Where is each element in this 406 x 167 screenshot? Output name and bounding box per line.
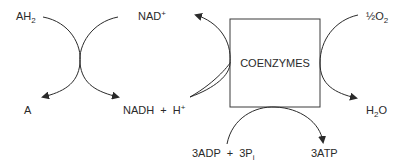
arc-left-of-box — [190, 63, 230, 97]
label-nadh-h-plus: NADH + H+ — [123, 103, 186, 116]
label-half-o2: ½O2 — [366, 10, 389, 25]
arc-adp-to-atp — [227, 107, 323, 144]
arc-nad-to-nadh — [80, 17, 118, 97]
label-3adp-3pi: 3ADP + 3Pi — [192, 147, 255, 162]
label-ah2: AH2 — [16, 10, 36, 25]
arc-ah2-to-a — [43, 17, 80, 97]
label-3atp: 3ATP — [311, 147, 338, 159]
label-nad-plus: NAD+ — [138, 9, 166, 22]
coenzymes-label: COENZYMES — [240, 57, 310, 69]
arc-o2-to-h2o — [320, 15, 358, 98]
label-h2o: H2O — [366, 104, 387, 119]
arc-nadh-to-nad — [190, 15, 230, 97]
label-a: A — [24, 104, 32, 116]
coenzyme-diagram: COENZYMES AH2 NAD+ A NADH + H+ ½O2 H2O 3… — [0, 0, 406, 167]
